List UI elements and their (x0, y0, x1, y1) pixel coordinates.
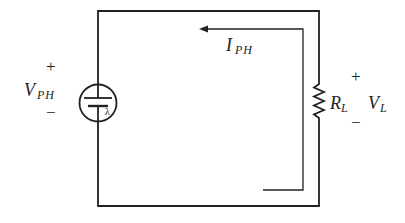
current-path-line (204, 29, 303, 190)
circuit-wires (98, 11, 319, 206)
circuit-diagram: λ + V PH − I PH R L + V L − (0, 0, 405, 223)
top-wire (98, 11, 319, 85)
source-minus-sign: − (46, 103, 56, 122)
resistor-label: R (329, 93, 341, 113)
load-voltage-subscript: L (379, 101, 387, 115)
photodiode-source: λ (80, 85, 117, 122)
current-subscript: PH (234, 43, 253, 57)
current-arrowhead-icon (199, 26, 208, 33)
current-label: I (225, 35, 233, 55)
load-resistor (314, 82, 324, 121)
lambda-symbol: λ (105, 106, 110, 117)
source-voltage-subscript: PH (36, 88, 55, 102)
source-plus-sign: + (46, 57, 56, 76)
source-voltage-label: V (24, 80, 37, 100)
resistor-subscript: L (340, 101, 348, 115)
bottom-wire (98, 121, 319, 206)
load-minus-sign: − (351, 113, 361, 132)
load-plus-sign: + (351, 67, 361, 86)
